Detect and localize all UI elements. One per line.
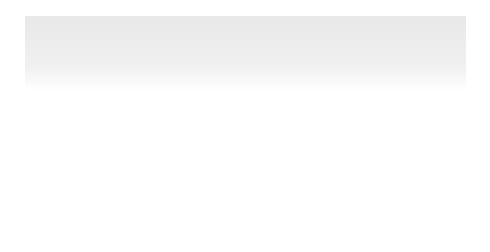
gesture-illustration — [0, 0, 490, 252]
